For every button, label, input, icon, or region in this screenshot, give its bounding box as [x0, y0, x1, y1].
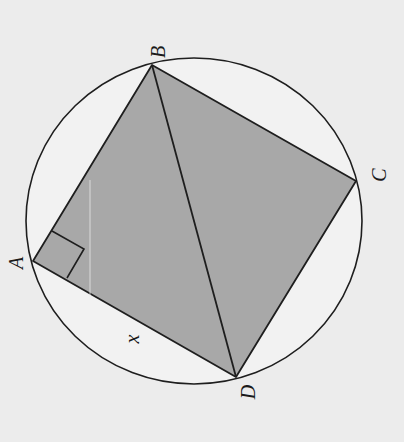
side-label-x: x [121, 334, 143, 344]
label-b: B [147, 46, 169, 58]
diagram-canvas: B C A D x [0, 0, 404, 442]
svg-text:A: A [5, 256, 27, 271]
svg-text:D: D [237, 384, 259, 400]
svg-text:C: C [368, 168, 390, 182]
label-a: A [5, 256, 27, 271]
label-c: C [368, 168, 390, 182]
label-d: D [237, 384, 259, 400]
svg-text:B: B [147, 46, 169, 58]
svg-text:x: x [121, 334, 143, 344]
